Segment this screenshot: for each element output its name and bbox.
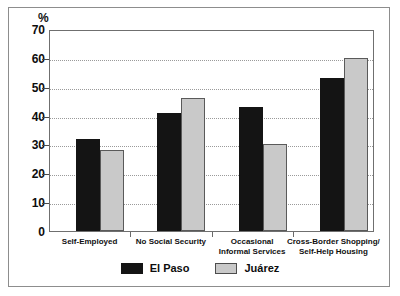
- y-tick-mark-10: [42, 203, 49, 204]
- chart-figure: % 706050403020100 Self-EmployedNo Social…: [0, 0, 400, 296]
- chart-legend: El PasoJuárez: [0, 262, 400, 274]
- gray-swatch: [215, 263, 237, 274]
- y-tick-mark-40: [42, 117, 49, 118]
- category-label-0: Self-Employed: [43, 237, 136, 247]
- bar-jurez-1: [181, 98, 205, 231]
- bar-elpaso-2: [239, 107, 263, 231]
- category-label-3: Cross-Border Shopping/Self-Help Housing: [287, 237, 380, 257]
- bar-group: [320, 31, 368, 231]
- black-swatch: [121, 263, 143, 274]
- y-tick-mark-60: [42, 59, 49, 60]
- category-label-line: Self-Help Housing: [287, 247, 380, 257]
- y-tick-mark-30: [42, 145, 49, 146]
- bar-jurez-0: [100, 150, 124, 231]
- category-label-line: Cross-Border Shopping/: [287, 237, 380, 247]
- bar-group: [157, 31, 205, 231]
- category-label-line: Informal Services: [206, 247, 299, 257]
- legend-label: Juárez: [244, 262, 279, 274]
- category-label-1: No Social Security: [124, 237, 217, 247]
- bar-elpaso-1: [157, 113, 181, 231]
- legend-item-jurez: Juárez: [215, 262, 279, 274]
- y-tick-label-70: 70: [19, 24, 45, 36]
- y-tick-mark-50: [42, 88, 49, 89]
- legend-item-elpaso: El Paso: [121, 262, 190, 274]
- bar-group: [239, 31, 287, 231]
- bar-group: [76, 31, 124, 231]
- category-label-line: Self-Employed: [43, 237, 136, 247]
- bar-elpaso-0: [76, 139, 100, 231]
- category-label-line: Occasional: [206, 237, 299, 247]
- bar-jurez-2: [263, 144, 287, 231]
- bar-jurez-3: [344, 58, 368, 231]
- bar-elpaso-3: [320, 78, 344, 231]
- legend-label: El Paso: [150, 262, 190, 274]
- category-label-2: OccasionalInformal Services: [206, 237, 299, 257]
- y-axis-tick-labels: 706050403020100: [14, 30, 45, 232]
- y-tick-label-0: 0: [19, 226, 45, 238]
- category-label-line: No Social Security: [124, 237, 217, 247]
- y-tick-mark-20: [42, 174, 49, 175]
- plot-area: [49, 30, 374, 232]
